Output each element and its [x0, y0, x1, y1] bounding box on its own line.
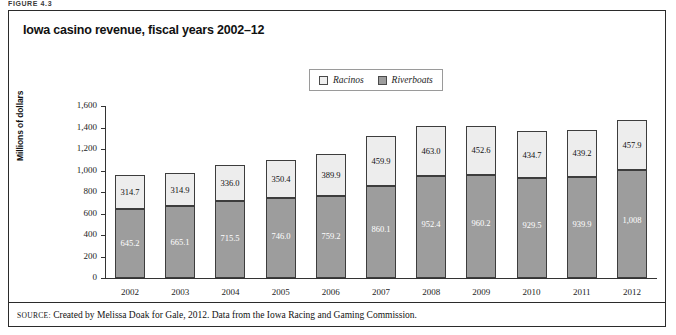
- bar-segment-riverboats[interactable]: 715.5: [215, 201, 245, 278]
- figure-panel: Iowa casino revenue, fiscal years 2002–1…: [8, 10, 666, 327]
- bar-group[interactable]: 336.0715.5: [215, 165, 245, 278]
- x-axis-tick-label: 2003: [158, 287, 202, 297]
- source-divider: [9, 302, 665, 303]
- bar-segment-riverboats[interactable]: 860.1: [366, 186, 396, 278]
- bar-segment-racinos[interactable]: 336.0: [215, 165, 245, 201]
- x-axis-tick-label: 2008: [409, 287, 453, 297]
- y-axis-tick-label: 1,600: [63, 101, 97, 110]
- plot-area: Millions of dollars 02004006008001,0001,…: [9, 11, 667, 328]
- y-axis-line: [105, 106, 106, 279]
- x-axis-tick-label: 2012: [610, 287, 654, 297]
- bar-value-label-riverboats: 929.5: [518, 221, 546, 230]
- x-axis-line: [105, 278, 657, 279]
- bar-value-label-riverboats: 759.2: [317, 232, 345, 241]
- y-axis-tick-mark: [101, 128, 105, 129]
- bar-value-label-racinos: 457.9: [618, 141, 646, 150]
- y-axis-tick-label: 800: [63, 187, 97, 196]
- bar-value-label-riverboats: 746.0: [267, 232, 295, 241]
- y-axis-tick-label: 1,000: [63, 166, 97, 175]
- bar-segment-racinos[interactable]: 314.7: [115, 175, 145, 209]
- bar-segment-racinos[interactable]: 459.9: [366, 136, 396, 185]
- bar-value-label-riverboats: 645.2: [116, 239, 144, 248]
- y-axis-tick-label: 200: [63, 252, 97, 261]
- bar-value-label-riverboats: 1,008: [618, 216, 646, 225]
- bar-value-label-racinos: 459.9: [367, 157, 395, 166]
- bar-value-label-racinos: 389.9: [317, 171, 345, 180]
- bar-value-label-racinos: 314.9: [166, 186, 194, 195]
- y-axis-tick-mark: [101, 235, 105, 236]
- bar-group[interactable]: 452.6960.2: [466, 126, 496, 278]
- y-axis-tick-mark: [101, 149, 105, 150]
- bar-segment-riverboats[interactable]: 1,008: [617, 170, 647, 278]
- bar-segment-racinos[interactable]: 463.0: [416, 126, 446, 176]
- bar-group[interactable]: 314.9665.1: [165, 173, 195, 278]
- bar-group[interactable]: 463.0952.4: [416, 126, 446, 278]
- bar-value-label-riverboats: 939.9: [568, 220, 596, 229]
- y-axis-tick-mark: [101, 106, 105, 107]
- bar-segment-riverboats[interactable]: 759.2: [316, 196, 346, 278]
- bar-value-label-racinos: 452.6: [467, 146, 495, 155]
- bar-group[interactable]: 459.9860.1: [366, 136, 396, 278]
- bar-group[interactable]: 434.7929.5: [517, 131, 547, 278]
- bar-value-label-riverboats: 860.1: [367, 225, 395, 234]
- bar-value-label-racinos: 434.7: [518, 151, 546, 160]
- bar-segment-riverboats[interactable]: 952.4: [416, 176, 446, 278]
- x-axis-tick-label: 2011: [560, 287, 604, 297]
- x-axis-tick-label: 2005: [259, 287, 303, 297]
- bar-segment-racinos[interactable]: 452.6: [466, 126, 496, 175]
- source-text: Created by Melissa Doak for Gale, 2012. …: [51, 310, 417, 320]
- y-axis-tick-mark: [101, 214, 105, 215]
- bar-value-label-riverboats: 960.2: [467, 219, 495, 228]
- y-axis-tick-mark: [101, 278, 105, 279]
- x-axis-tick-label: 2004: [208, 287, 252, 297]
- bar-value-label-riverboats: 665.1: [166, 238, 194, 247]
- x-axis-tick-label: 2009: [459, 287, 503, 297]
- bar-value-label-racinos: 336.0: [216, 179, 244, 188]
- bar-segment-racinos[interactable]: 389.9: [316, 154, 346, 196]
- x-axis-tick-label: 2006: [309, 287, 353, 297]
- source-note: SOURCE: Created by Melissa Doak for Gale…: [17, 310, 657, 320]
- y-axis-tick-label: 1,200: [63, 144, 97, 153]
- bar-group[interactable]: 457.91,008: [617, 120, 647, 278]
- bar-value-label-racinos: 350.4: [267, 175, 295, 184]
- figure-number-label: FIGURE 4.3: [8, 0, 208, 9]
- y-axis-tick-mark: [101, 192, 105, 193]
- x-axis-tick-label: 2007: [359, 287, 403, 297]
- y-axis-tick-label: 400: [63, 230, 97, 239]
- x-axis-tick-label: 2010: [510, 287, 554, 297]
- bar-segment-racinos[interactable]: 434.7: [517, 131, 547, 178]
- bar-segment-riverboats[interactable]: 939.9: [567, 177, 597, 278]
- bar-value-label-racinos: 439.2: [568, 149, 596, 158]
- bar-value-label-racinos: 314.7: [116, 188, 144, 197]
- x-axis-tick-label: 2002: [108, 287, 152, 297]
- y-axis-tick-label: 0: [63, 273, 97, 282]
- bar-segment-riverboats[interactable]: 960.2: [466, 175, 496, 278]
- bar-segment-racinos[interactable]: 457.9: [617, 120, 647, 169]
- y-axis-tick-mark: [101, 171, 105, 172]
- y-axis-tick-label: 600: [63, 209, 97, 218]
- bar-group[interactable]: 389.9759.2: [316, 154, 346, 278]
- y-axis-tick-label: 1,400: [63, 123, 97, 132]
- y-axis-tick-mark: [101, 257, 105, 258]
- bar-segment-riverboats[interactable]: 929.5: [517, 178, 547, 278]
- bar-group[interactable]: 314.7645.2: [115, 175, 145, 278]
- bar-segment-racinos[interactable]: 350.4: [266, 160, 296, 198]
- bar-value-label-riverboats: 952.4: [417, 220, 445, 229]
- bar-group[interactable]: 439.2939.9: [567, 130, 597, 278]
- bar-group[interactable]: 350.4746.0: [266, 160, 296, 278]
- bar-value-label-racinos: 463.0: [417, 147, 445, 156]
- bar-segment-racinos[interactable]: 439.2: [567, 130, 597, 177]
- source-kicker: SOURCE:: [17, 311, 51, 320]
- bar-segment-riverboats[interactable]: 665.1: [165, 206, 195, 277]
- y-axis-title: Millions of dollars: [15, 71, 25, 161]
- bar-segment-riverboats[interactable]: 645.2: [115, 209, 145, 278]
- bar-value-label-riverboats: 715.5: [216, 234, 244, 243]
- bar-segment-riverboats[interactable]: 746.0: [266, 198, 296, 278]
- bar-segment-racinos[interactable]: 314.9: [165, 173, 195, 207]
